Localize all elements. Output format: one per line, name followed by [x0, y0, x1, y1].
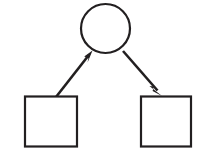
edge-circle-to-right-square-line: [123, 51, 158, 91]
left-square-node: [25, 97, 77, 147]
diagram-canvas: [0, 0, 210, 157]
edge-left-square-to-circle-line: [56, 56, 89, 98]
diagram-svg: [0, 0, 210, 157]
right-square-node: [141, 97, 191, 147]
edge-circle-to-right-square: [123, 51, 162, 96]
circle-node: [81, 4, 130, 53]
edge-left-square-to-circle: [56, 51, 93, 98]
